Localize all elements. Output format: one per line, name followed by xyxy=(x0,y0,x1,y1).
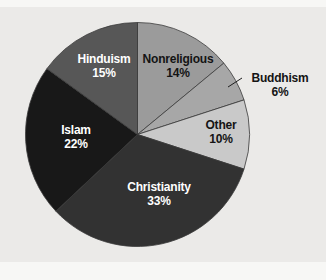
slice-percent-christianity: 33% xyxy=(147,194,171,208)
slice-label-islam: Islam xyxy=(61,123,91,137)
slice-label-buddhism: Buddhism xyxy=(251,71,308,85)
slice-percent-hinduism: 15% xyxy=(92,66,116,80)
pie-chart: Nonreligious14%Buddhism6%Other10%Christi… xyxy=(0,0,326,280)
slice-percent-other: 10% xyxy=(209,132,233,146)
slice-label-hinduism: Hinduism xyxy=(77,52,130,66)
slice-percent-islam: 22% xyxy=(64,137,88,151)
slice-label-other: Other xyxy=(205,118,237,132)
slice-label-christianity: Christianity xyxy=(127,180,191,194)
figure-page: Nonreligious14%Buddhism6%Other10%Christi… xyxy=(0,0,326,280)
slice-percent-nonreligious: 14% xyxy=(166,66,190,80)
slice-label-nonreligious: Nonreligious xyxy=(143,52,214,66)
slice-percent-buddhism: 6% xyxy=(272,85,289,99)
